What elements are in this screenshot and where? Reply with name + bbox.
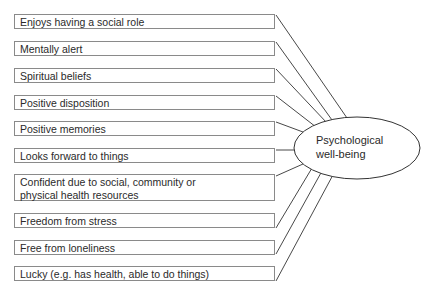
factor-box-social-role: Enjoys having a social role [14, 14, 275, 29]
outcome-label-line2: well-being [316, 147, 406, 161]
connector-10 [276, 173, 334, 281]
outcome-label: Psychological well-being [316, 133, 406, 161]
connector-2 [276, 42, 332, 120]
factor-box-mentally-alert: Mentally alert [14, 41, 275, 56]
factor-box-confident-resources: Confident due to social, community or ph… [14, 174, 275, 201]
factor-box-freedom-stress: Freedom from stress [14, 213, 275, 228]
factor-label: Positive memories [20, 123, 106, 135]
factor-label: Positive disposition [20, 97, 109, 109]
factor-label: Mentally alert [20, 43, 82, 55]
factor-label: Spiritual beliefs [20, 70, 91, 82]
factor-label: Free from loneliness [20, 242, 115, 254]
factor-label: Lucky (e.g. has health, able to do thing… [20, 268, 209, 280]
connector-9 [276, 171, 322, 254]
connector-4 [276, 96, 316, 127]
factor-box-free-loneliness: Free from loneliness [14, 240, 275, 255]
connector-7 [276, 164, 303, 176]
factor-box-spiritual-beliefs: Spiritual beliefs [14, 68, 275, 83]
connector-5 [276, 122, 303, 132]
factor-label: Looks forward to things [20, 150, 129, 162]
factor-box-positive-memories: Positive memories [14, 121, 275, 136]
factor-box-positive-disposition: Positive disposition [14, 95, 275, 110]
outcome-label-line1: Psychological [316, 133, 406, 147]
factor-label: Confident due to social, community or ph… [20, 176, 196, 201]
factor-box-looks-forward: Looks forward to things [14, 148, 275, 163]
factor-box-lucky: Lucky (e.g. has health, able to do thing… [14, 266, 275, 281]
factor-label: Enjoys having a social role [20, 16, 144, 28]
connector-1 [276, 15, 347, 118]
factor-label: Freedom from stress [20, 215, 117, 227]
